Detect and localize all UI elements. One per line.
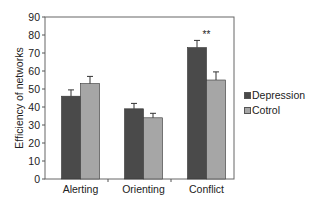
legend-swatch-depression — [244, 92, 251, 99]
y-tick-label: 60 — [28, 65, 40, 77]
legend: Depression Cotrol — [244, 88, 305, 118]
y-tick-label: 40 — [28, 101, 40, 113]
y-tick-label: 20 — [28, 137, 40, 149]
y-tick-label: 90 — [28, 11, 40, 23]
x-tick-label: Orienting — [122, 183, 165, 195]
bar-cotrol — [81, 84, 100, 179]
bar-depression — [188, 48, 207, 179]
x-tick-label: Conflict — [189, 183, 224, 195]
y-tick-label: 50 — [28, 83, 40, 95]
legend-label-depression: Depression — [252, 88, 305, 103]
bar-depression — [62, 96, 81, 179]
y-tick-label: 10 — [28, 155, 40, 167]
legend-swatch-control — [244, 107, 251, 114]
bar-cotrol — [144, 118, 163, 179]
y-tick-label: 70 — [28, 47, 40, 59]
y-tick-label: 80 — [28, 29, 40, 41]
significance-marker: ** — [203, 29, 211, 40]
x-tick-label: Alerting — [63, 183, 99, 195]
legend-label-control: Cotrol — [252, 103, 280, 118]
bar-depression — [125, 109, 144, 179]
bar-cotrol — [207, 80, 226, 179]
legend-item-control: Cotrol — [244, 103, 305, 118]
legend-item-depression: Depression — [244, 88, 305, 103]
y-tick-label: 30 — [28, 119, 40, 131]
y-tick-label: 0 — [34, 173, 40, 185]
